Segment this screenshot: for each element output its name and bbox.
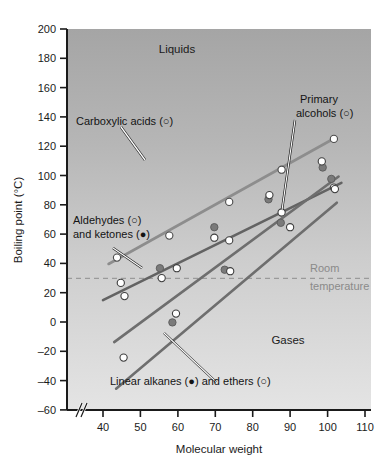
data-point [158,275,165,282]
data-point [173,265,180,272]
data-point [211,224,218,231]
annotation-aldehydes-line1: Aldehydes (○) [73,214,141,226]
x-tick-label: 70 [209,421,221,433]
data-point [172,310,179,317]
x-tick-label: 80 [247,421,259,433]
y-tick-label: 0 [50,316,56,328]
x-tick-label: 100 [318,421,336,433]
data-point [277,219,284,226]
y-tick-label: 120 [38,140,56,152]
data-point [169,319,176,326]
annotation-carboxylic-acids: Carboxylic acids (○) [76,115,173,127]
x-tick-label: 110 [356,421,374,433]
x-axis-title: Molecular weight [176,443,263,455]
annotation-aldehydes-line2: and ketones (●) [73,228,150,240]
data-point [328,175,335,182]
data-point [156,265,163,272]
data-point [278,209,285,216]
annotation-primary-alcohols-line2: alcohols (○) [296,107,353,119]
data-point [318,158,325,165]
data-point [113,254,120,261]
x-tick-label: 60 [172,421,184,433]
data-point [120,354,127,361]
y-tick-label: 20 [44,287,56,299]
y-tick-label: 160 [38,82,56,94]
y-tick-label: 40 [44,257,56,269]
x-tick-label: 90 [284,421,296,433]
x-tick-label: 40 [97,421,109,433]
y-tick-label: –60 [38,404,56,416]
data-point [278,166,285,173]
y-tick-label: 100 [38,170,56,182]
y-tick-label: –40 [38,375,56,387]
annotation-primary-alcohols-line1: Primary [300,93,338,105]
y-tick-label: –20 [38,345,56,357]
y-tick-label: 80 [44,199,56,211]
room-temperature-label-line1: Room [310,262,339,274]
zone-label-gases: Gases [271,334,304,346]
y-tick-label: 60 [44,228,56,240]
data-point [117,279,124,286]
data-point [331,186,338,193]
data-point [330,135,337,142]
data-point [227,268,234,275]
data-point [226,198,233,205]
data-point [266,192,273,199]
data-point [226,237,233,244]
y-axis: 200 180 160 140 120 100 80 60 40 20 0 –2… [38,23,67,416]
data-point [287,224,294,231]
y-tick-label: 180 [38,52,56,64]
x-tick-label: 50 [134,421,146,433]
boiling-point-scatter-chart: Room temperature Liquids Gases [0,0,383,466]
y-tick-label: 200 [38,23,56,35]
chart-figure: Room temperature Liquids Gases [0,0,383,466]
data-point [166,232,173,239]
annotation-linear-alkanes-ethers: Linear alkanes (●) and ethers (○) [110,375,271,387]
room-temperature-label-line2: temperature [310,280,369,292]
data-point [211,234,218,241]
zone-label-liquids: Liquids [159,43,196,55]
y-tick-label: 140 [38,111,56,123]
y-axis-title: Boiling point (°C) [12,177,24,264]
data-point [121,293,128,300]
